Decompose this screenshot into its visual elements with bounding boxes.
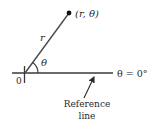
origin-label: 0 (16, 76, 22, 86)
angle-arc (33, 63, 38, 74)
point-dot (67, 11, 72, 16)
polar-coordinate-diagram: (r, θ) r θ 0 θ = 0° Reference line (0, 0, 159, 129)
reference-caption-line2: line (79, 111, 96, 121)
reference-arrow (84, 77, 94, 98)
radius-label: r (40, 32, 46, 43)
reference-caption-line1: Reference (64, 99, 111, 109)
point-label: (r, θ) (75, 8, 99, 19)
reference-equation: θ = 0° (117, 68, 148, 79)
angle-label: θ (41, 57, 47, 68)
